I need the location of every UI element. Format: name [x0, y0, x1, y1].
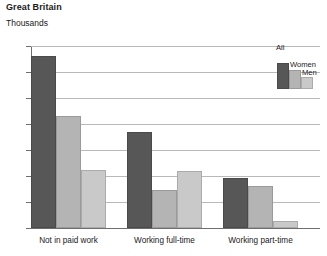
page-title: Great Britain	[6, 2, 62, 12]
legend-label-all: All	[276, 43, 284, 52]
chart-units-label: Thousands	[6, 18, 48, 28]
bar	[56, 116, 81, 228]
gridline	[31, 228, 320, 229]
bar	[31, 56, 56, 228]
x-axis-category-label: Working full-time	[127, 236, 202, 245]
bar	[81, 170, 106, 229]
legend-label-men: Men	[302, 68, 317, 77]
x-axis-category-label: Working part-time	[223, 236, 298, 245]
legend-swatch-women	[289, 70, 301, 89]
bar	[223, 178, 248, 228]
legend-swatch-all	[277, 63, 289, 89]
legend: All Women Men	[277, 53, 327, 89]
bar	[177, 171, 202, 228]
x-axis-category-label: Not in paid work	[31, 236, 106, 245]
bar	[152, 190, 177, 228]
bar	[273, 221, 298, 228]
chart-container: Great Britain Thousands 0100200300400500…	[0, 0, 327, 256]
legend-swatch-men	[301, 77, 313, 89]
bar	[127, 132, 152, 228]
bar	[248, 186, 273, 228]
